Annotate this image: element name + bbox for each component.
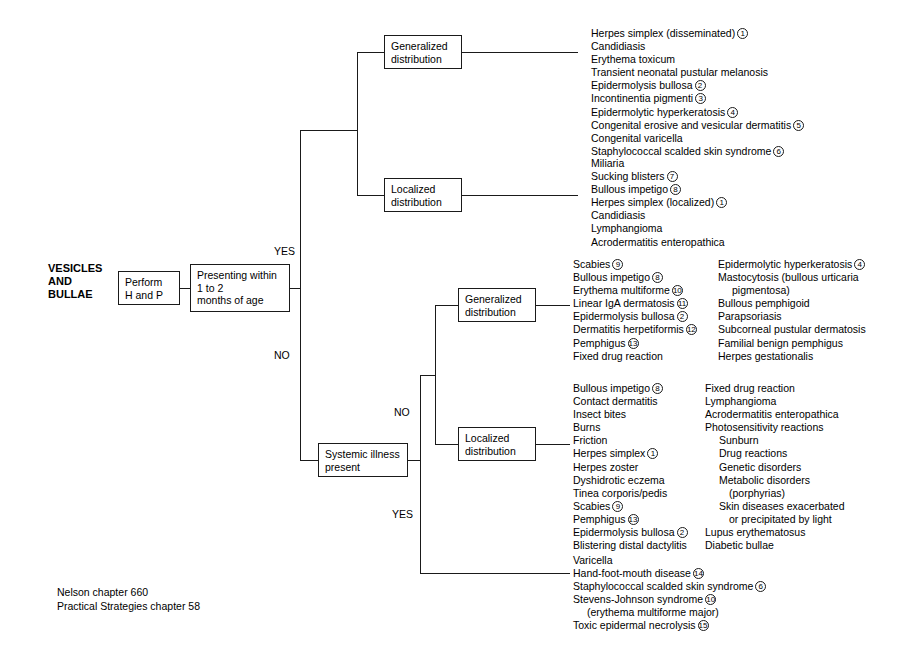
diagnosis-label: Herpes zoster [573, 461, 638, 473]
diagnosis-item: Herpes simplex (disseminated)1 [591, 27, 804, 40]
diagnosis-label: Bullous impetigo [573, 271, 650, 283]
reference-number-badge: 14 [693, 568, 704, 579]
list-neonatal-localized: MiliariaSucking blisters7Bullous impetig… [591, 157, 727, 249]
diagnosis-item: Bullous impetigo8 [573, 382, 688, 395]
diagnosis-item: Staphylococcal scalded skin syndrome6 [591, 145, 804, 158]
diagnosis-label: or precipitated by light [729, 513, 832, 525]
connector-localized-neonatal-list [462, 195, 578, 196]
diagnosis-label: Pemphigus [573, 513, 626, 525]
node-generalized-distribution-older[interactable]: Generalized distribution [458, 288, 536, 322]
node-perform-h-and-p[interactable]: Perform H and P [118, 271, 180, 305]
diagnosis-label: Epidermolysis bullosa [573, 310, 675, 322]
diagnosis-label: Parapsoriasis [718, 310, 782, 322]
diagnosis-item: Toxic epidermal necrolysis15 [573, 619, 766, 632]
diagnosis-label: Epidermolysis bullosa [573, 526, 675, 538]
diagnosis-label: Staphylococcal scalded skin syndrome [591, 145, 771, 157]
branch-label-yes-neonatal: YES [274, 245, 295, 257]
diagnosis-label: Mastocytosis (bullous urticaria [718, 271, 859, 283]
reference-number-badge: 2 [695, 80, 706, 91]
diagnosis-item: Drug reactions [705, 447, 845, 460]
diagnosis-item: Bullous impetigo8 [591, 183, 727, 196]
connector-systemic-yes [420, 573, 570, 574]
connector-systemic-out [408, 460, 420, 461]
diagnosis-item: Insect bites [573, 408, 688, 421]
reference-number-badge: 8 [670, 184, 681, 195]
diagnosis-item: Herpes zoster [573, 461, 688, 474]
diagnosis-item: Transient neonatal pustular melanosis [591, 66, 804, 79]
connector-generalized-older-list [536, 305, 570, 306]
diagnosis-item: Stevens-Johnson syndrome10 [573, 593, 766, 606]
diagnosis-label: pigmentosa) [732, 284, 790, 296]
node-localized-distribution-older[interactable]: Localized distribution [458, 427, 536, 461]
diagnosis-label: Herpes simplex (localized) [591, 196, 714, 208]
diagnosis-item: Staphylococcal scalded skin syndrome6 [573, 580, 766, 593]
reference-number-badge: 1 [716, 197, 727, 208]
diagnosis-item: Congenital erosive and vesicular dermati… [591, 119, 804, 132]
list-generalized-older-right: Epidermolytic hyperkeratosis4Mastocytosi… [718, 258, 866, 363]
node-systemic-illness-present[interactable]: Systemic illness present [318, 443, 408, 477]
reference-number-badge: 6 [755, 581, 766, 592]
diagnosis-item: Fixed drug reaction [573, 350, 697, 363]
node-presenting-within-1-to-2-months[interactable]: Presenting within 1 to 2 months of age [190, 264, 290, 312]
reference-number-badge: 13 [628, 338, 639, 349]
reference-number-badge: 10 [705, 594, 716, 605]
source-citation: Nelson chapter 660 Practical Strategies … [57, 586, 200, 613]
diagnosis-item: Tinea corporis/pedis [573, 487, 688, 500]
diagnosis-item: (erythema multiforme major) [573, 606, 766, 619]
diagnosis-label: Varicella [573, 554, 613, 566]
diagnosis-item: Herpes gestationalis [718, 350, 866, 363]
diagnosis-label: Bullous impetigo [573, 382, 650, 394]
diagnosis-item: pigmentosa) [718, 284, 866, 297]
diagnosis-item: Skin diseases exacerbated [705, 500, 845, 513]
diagnosis-label: Subcorneal pustular dermatosis [718, 323, 866, 335]
branch-label-no-systemic: NO [394, 406, 410, 418]
list-localized-older-left: Bullous impetigo8Contact dermatitisInsec… [573, 382, 688, 552]
connector-older-subtrunk [435, 305, 436, 444]
diagnosis-item: Herpes simplex1 [573, 447, 688, 460]
diagnosis-label: Lymphangioma [591, 222, 662, 234]
diagnosis-item: Candidiasis [591, 40, 804, 53]
diagnosis-item: Pemphigus13 [573, 337, 697, 350]
diagnosis-item: Contact dermatitis [573, 395, 688, 408]
diagnosis-label: Bullous pemphigoid [718, 297, 810, 309]
reference-number-badge: 12 [686, 324, 697, 335]
diagnosis-label: Congenital erosive and vesicular dermati… [591, 119, 791, 131]
reference-number-badge: 4 [854, 259, 865, 270]
diagnosis-item: Epidermolytic hyperkeratosis4 [718, 258, 866, 271]
diagnosis-label: Fixed drug reaction [705, 382, 795, 394]
diagnosis-item: Epidermolysis bullosa2 [573, 310, 697, 323]
diagnosis-item: Miliaria [591, 157, 727, 170]
diagnosis-label: Erythema toxicum [591, 53, 675, 65]
reference-number-badge: 4 [727, 107, 738, 118]
diagnosis-label: Blistering distal dactylitis [573, 539, 687, 551]
diagnosis-label: Lupus erythematosus [705, 526, 805, 538]
diagnosis-label: Acrodermatitis enteropathica [591, 236, 725, 248]
node-localized-distribution-neonatal[interactable]: Localized distribution [384, 178, 462, 212]
diagnosis-label: Photosensitivity reactions [705, 421, 823, 433]
flowchart-canvas: VESICLES AND BULLAE Perform H and P Pres… [0, 0, 908, 658]
diagnosis-label: Herpes gestationalis [718, 350, 813, 362]
diagnosis-item: Photosensitivity reactions [705, 421, 845, 434]
list-neonatal-generalized: Herpes simplex (disseminated)1Candidiasi… [591, 27, 804, 158]
connector-to-localized-older [435, 444, 458, 445]
diagnosis-label: Metabolic disorders [719, 474, 810, 486]
node-generalized-distribution-neonatal[interactable]: Generalized distribution [384, 35, 462, 69]
diagnosis-label: Candidiasis [591, 209, 645, 221]
reference-number-badge: 13 [628, 514, 639, 525]
diagnosis-item: Epidermolytic hyperkeratosis4 [591, 106, 804, 119]
reference-number-badge: 1 [647, 448, 658, 459]
diagnosis-item: Diabetic bullae [705, 539, 845, 552]
diagnosis-item: Herpes simplex (localized)1 [591, 196, 727, 209]
diagnosis-label: Insect bites [573, 408, 626, 420]
diagnosis-item: Erythema multiforme10 [573, 284, 697, 297]
diagnosis-label: Contact dermatitis [573, 395, 658, 407]
diagnosis-label: Epidermolytic hyperkeratosis [718, 258, 852, 270]
diagnosis-item: Mastocytosis (bullous urticaria [718, 271, 866, 284]
diagnosis-label: (erythema multiforme major) [587, 606, 719, 618]
connector-yes-branch [300, 130, 357, 131]
reference-number-badge: 9 [612, 259, 623, 270]
reference-number-badge: 7 [667, 171, 678, 182]
reference-number-badge: 6 [773, 146, 784, 157]
diagnosis-label: Staphylococcal scalded skin syndrome [573, 580, 753, 592]
list-systemic-illness-yes: VaricellaHand-foot-mouth disease14Staphy… [573, 554, 766, 633]
